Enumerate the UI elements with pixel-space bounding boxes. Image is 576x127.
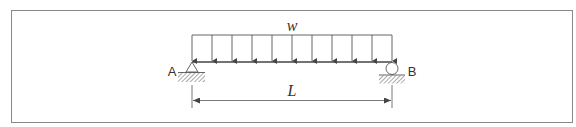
beam-diagram: w A B L — [0, 0, 576, 127]
load-label: w — [287, 17, 298, 34]
support-label-b: B — [408, 64, 417, 79]
roller-support-b — [379, 63, 405, 84]
distributed-load — [192, 35, 392, 61]
support-label-a: A — [168, 64, 177, 79]
span-label: L — [287, 82, 297, 99]
pin-support-a — [178, 62, 205, 82]
